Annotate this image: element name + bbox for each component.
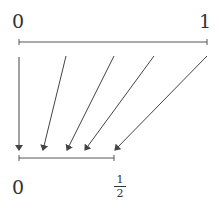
bottom-left-label: 0 (12, 178, 24, 197)
top-right-label: 1 (199, 12, 211, 31)
interval-map-diagram (0, 0, 219, 210)
denominator: 2 (117, 187, 124, 200)
numerator: 1 (117, 173, 124, 186)
arrow-3 (85, 56, 154, 150)
top-interval (19, 39, 207, 45)
mapping-arrows (19, 56, 207, 150)
bottom-right-label-fraction: 1 2 (114, 174, 126, 199)
arrow-2 (67, 56, 114, 150)
bottom-interval (19, 155, 114, 161)
arrow-4 (115, 56, 207, 150)
arrow-1 (43, 56, 66, 150)
top-left-label: 0 (12, 12, 24, 31)
